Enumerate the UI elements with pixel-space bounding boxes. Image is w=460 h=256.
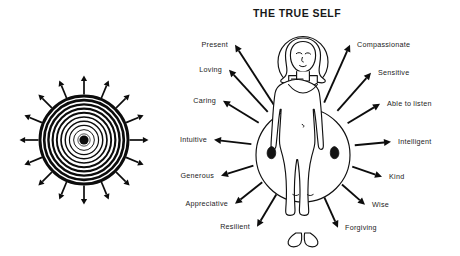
trait-arrow-shaft-4 [228, 166, 254, 174]
ray-shaft-2 [101, 86, 106, 98]
ray-shaft-4 [126, 117, 138, 122]
true-self-illustration: THE TRUE SELF [0, 0, 460, 256]
trait-label-intuitive: Intuitive [180, 135, 207, 144]
trait-arrow-head-10 [384, 139, 391, 146]
trait-arrow-shaft-6 [261, 195, 277, 221]
page-title: THE TRUE SELF [253, 7, 341, 19]
ray-shaft-6 [126, 157, 138, 162]
trait-arrow-shaft-11 [352, 167, 375, 175]
right-hand-icon [330, 147, 339, 159]
human-figure [256, 37, 350, 247]
trait-arrow-head-11 [374, 171, 382, 178]
right-knee-line [307, 195, 313, 196]
trait-label-present: Present [201, 40, 228, 49]
trait-label-caring: Caring [193, 96, 216, 105]
left-knee-line [293, 195, 299, 196]
trait-arrow-shaft-3 [221, 141, 251, 144]
ray-shaft-16 [61, 86, 66, 98]
ray-shaft-8 [101, 182, 106, 194]
trait-label-generous: Generous [180, 171, 214, 180]
trait-arrow-shaft-8 [337, 78, 366, 111]
trait-arrow-head-3 [214, 137, 221, 144]
trait-arrow-shaft-13 [324, 197, 335, 221]
trait-label-sensitive: Sensitive [378, 68, 409, 77]
ray-shaft-11 [42, 172, 51, 181]
ray-shaft-3 [116, 98, 125, 107]
trait-arrow-head-4 [221, 170, 229, 177]
ray-shaft-7 [116, 172, 125, 181]
trait-label-compassionate: Compassionate [357, 40, 410, 49]
right-foot-shape [304, 233, 318, 247]
trait-arrow-shaft-0 [239, 51, 275, 107]
trait-label-loving: Loving [199, 65, 222, 74]
trait-label-appreciative: Appreciative [185, 199, 228, 208]
trait-label-kind: Kind [389, 172, 404, 181]
ray-head-9 [81, 199, 87, 205]
trait-label-wise: Wise [372, 200, 389, 209]
trait-label-forgiving: Forgiving [345, 223, 377, 232]
ray-shaft-15 [42, 98, 51, 107]
left-foot-shape [288, 233, 302, 247]
trait-label-resilient: Resilient [220, 222, 250, 231]
trait-arrow-shaft-5 [240, 182, 262, 199]
ray-head-1 [81, 76, 87, 82]
trait-label-able-to-listen: Able to listen [387, 99, 432, 108]
radiating-circles-diagram [20, 76, 149, 205]
face-shape [290, 42, 315, 72]
trait-arrow-shaft-10 [355, 142, 384, 145]
trait-label-intelligent: Intelligent [398, 137, 432, 146]
trait-arrow-shaft-1 [234, 75, 268, 112]
trait-arrow-shaft-2 [229, 104, 259, 122]
center-core-dot [79, 135, 88, 144]
trait-arrow-shaft-12 [342, 184, 360, 200]
ray-shaft-14 [30, 117, 42, 122]
ray-head-5 [143, 137, 149, 143]
ray-head-13 [20, 137, 26, 143]
trait-arrow-shaft-9 [348, 107, 374, 123]
ray-shaft-10 [61, 182, 66, 194]
ray-shaft-12 [30, 157, 42, 162]
left-hand-icon [267, 147, 276, 159]
